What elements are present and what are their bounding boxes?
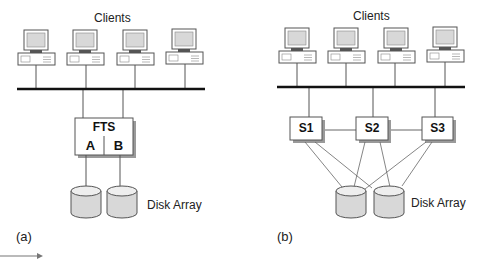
fts-label: FTS	[75, 120, 133, 134]
client-computer-icon	[328, 28, 365, 63]
fts-part-a: A	[77, 138, 104, 153]
caption-a: (a)	[16, 229, 32, 244]
caption-b: (b)	[277, 229, 293, 244]
fts-part-b: B	[104, 138, 133, 153]
disk-icon	[107, 186, 137, 218]
server-label-s3: S3	[422, 121, 453, 135]
server-label-s2: S2	[356, 121, 388, 135]
clients-label: Clients	[353, 9, 390, 23]
client-computer-icon	[279, 28, 316, 63]
client-computer-icon	[67, 30, 104, 65]
arrow-icon	[37, 253, 43, 259]
client-computer-icon	[378, 28, 415, 63]
disk-icon	[336, 186, 366, 218]
client-computer-icon	[117, 30, 154, 65]
clients-label: Clients	[94, 11, 131, 25]
disk-icon	[71, 186, 101, 218]
disk-array-label: Disk Array	[147, 198, 202, 212]
client-computer-icon	[18, 30, 55, 65]
disk-array-label: Disk Array	[411, 196, 466, 210]
server-label-s1: S1	[290, 121, 322, 135]
client-computer-icon	[427, 27, 464, 62]
diagram-canvas	[0, 0, 480, 260]
disk-icon	[374, 186, 404, 218]
client-computer-icon	[166, 29, 203, 64]
